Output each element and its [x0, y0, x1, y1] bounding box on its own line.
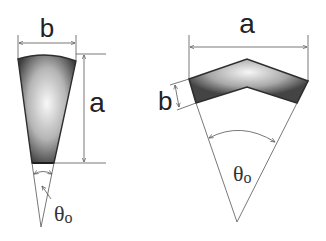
left-b-dimension: b	[18, 13, 76, 60]
left-theta-label: θo	[54, 201, 73, 226]
left-a-label: a	[89, 87, 105, 118]
left-b-label: b	[40, 13, 54, 43]
right-theta-label: θo	[233, 161, 252, 186]
right-angle-construction: θo	[196, 103, 297, 222]
right-chevron-shape	[189, 59, 308, 103]
left-wedge-shape	[18, 55, 76, 163]
right-a-label: a	[239, 8, 255, 39]
right-b-label: b	[158, 86, 172, 116]
diagram-canvas: b a θo a	[0, 0, 326, 241]
left-angle-construction: θo	[32, 163, 73, 227]
left-figure: b a θo	[18, 13, 106, 227]
right-figure: a b θo	[158, 8, 308, 222]
